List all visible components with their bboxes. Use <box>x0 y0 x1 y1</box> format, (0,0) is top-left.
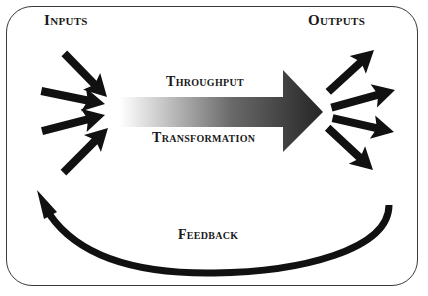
transformation-label: Transformation <box>152 130 255 146</box>
inputs-label: Inputs <box>44 12 88 29</box>
input-arrows <box>39 45 117 181</box>
outputs-label: Outputs <box>308 12 365 29</box>
output-arrow-icon <box>320 41 382 101</box>
feedback-label: Feedback <box>178 227 238 243</box>
throughput-label: Throughput <box>166 74 244 90</box>
output-arrows <box>319 41 398 179</box>
system-model-diagram <box>0 0 428 296</box>
